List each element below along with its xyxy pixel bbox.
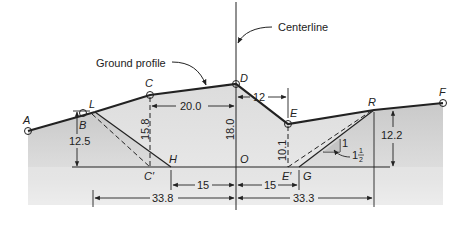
ground-profile-label: Ground profile <box>96 57 166 69</box>
point-d-label: D <box>240 72 248 84</box>
point-c-prime-label: C′ <box>144 170 155 182</box>
point-o-label: O <box>240 153 249 165</box>
dim-d-height: 18.0 <box>224 119 236 140</box>
point-c-label: C <box>145 77 153 89</box>
dim-h-o: 15 <box>197 179 209 191</box>
point-e-prime-label: E′ <box>282 170 292 182</box>
slope-rise-label: 1 <box>342 137 348 149</box>
point-h-label: H <box>169 153 177 165</box>
point-e-label: E <box>290 107 298 119</box>
dim-left-offset: 33.8 <box>152 192 173 204</box>
point-g-label: G <box>303 170 312 182</box>
point-f-label: F <box>439 86 447 98</box>
point-r-label: R <box>368 96 376 108</box>
dim-l-height: 12.5 <box>69 135 90 147</box>
dim-o-g: 15 <box>264 179 276 191</box>
dim-c-d: 20.0 <box>180 100 201 112</box>
point-a-label: A <box>22 114 30 126</box>
dim-right-offset: 33.3 <box>293 192 314 204</box>
slope-run-whole: 1 <box>352 149 358 161</box>
diagram-labels: Centerline Ground profile A L B C D E R … <box>0 0 466 242</box>
centerline-label: Centerline <box>278 21 328 33</box>
point-l-label: L <box>89 98 95 110</box>
slope-run-denominator: 2 <box>359 156 363 163</box>
dim-e-height: 10.1 <box>276 140 288 161</box>
dim-c-height: 15.8 <box>139 119 151 140</box>
dim-r-height: 12.2 <box>381 129 402 141</box>
slope-run-numerator: 1 <box>359 147 363 154</box>
dim-d-e: 12 <box>253 91 265 103</box>
point-b-label: B <box>79 119 86 131</box>
